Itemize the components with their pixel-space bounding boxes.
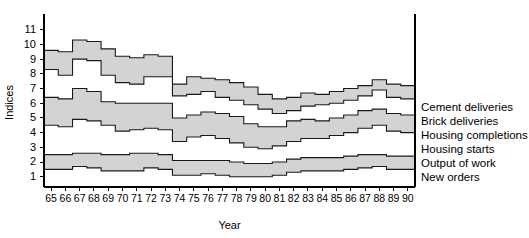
x-tick-label-83: 83 <box>302 192 314 204</box>
x-tick-label-69: 69 <box>102 192 114 204</box>
y-tick-label-10: 10 <box>24 38 36 50</box>
x-tick-label-68: 68 <box>88 192 100 204</box>
x-tick-label-88: 88 <box>373 192 385 204</box>
indices-step-area-chart: 1234567891011656667686970717273747576777… <box>0 0 529 238</box>
x-tick-label-78: 78 <box>231 192 243 204</box>
x-tick-label-75: 75 <box>188 192 200 204</box>
x-tick-label-67: 67 <box>74 192 86 204</box>
x-tick-label-87: 87 <box>359 192 371 204</box>
legend-label-new-orders: New orders <box>421 171 480 183</box>
y-axis-title: Indices <box>3 85 15 120</box>
x-tick-label-73: 73 <box>159 192 171 204</box>
legend-label-brick-deliveries: Brick deliveries <box>421 115 499 127</box>
x-tick-label-85: 85 <box>331 192 343 204</box>
legend-label-housing-completions: Housing completions <box>421 129 528 141</box>
legend-label-output-of-work: Output of work <box>421 157 496 169</box>
x-tick-label-84: 84 <box>316 192 328 204</box>
x-tick-label-90: 90 <box>402 192 414 204</box>
legend-label-housing-starts: Housing starts <box>421 143 495 155</box>
x-tick-label-82: 82 <box>288 192 300 204</box>
y-tick-label-9: 9 <box>30 53 36 65</box>
x-tick-label-81: 81 <box>274 192 286 204</box>
x-tick-label-79: 79 <box>245 192 257 204</box>
y-tick-label-11: 11 <box>25 23 36 35</box>
x-tick-label-74: 74 <box>174 192 186 204</box>
y-tick-label-8: 8 <box>30 67 36 79</box>
x-tick-label-77: 77 <box>217 192 229 204</box>
x-tick-label-66: 66 <box>60 192 72 204</box>
x-tick-label-72: 72 <box>145 192 157 204</box>
x-tick-label-86: 86 <box>345 192 357 204</box>
x-tick-label-71: 71 <box>131 192 143 204</box>
y-tick-label-3: 3 <box>30 141 36 153</box>
x-tick-label-76: 76 <box>202 192 214 204</box>
y-tick-label-1: 1 <box>30 170 36 182</box>
y-tick-label-5: 5 <box>30 111 36 123</box>
x-tick-label-70: 70 <box>117 192 129 204</box>
x-tick-label-80: 80 <box>259 192 271 204</box>
band-bottom-output-of-work <box>44 153 415 177</box>
legend-label-cement-deliveries: Cement deliveries <box>421 101 513 113</box>
y-tick-label-6: 6 <box>30 97 36 109</box>
chart-container: 1234567891011656667686970717273747576777… <box>0 0 529 238</box>
x-tick-label-89: 89 <box>388 192 400 204</box>
y-tick-label-4: 4 <box>30 126 36 138</box>
x-tick-label-65: 65 <box>45 192 57 204</box>
y-tick-label-2: 2 <box>30 155 36 167</box>
y-tick-label-7: 7 <box>30 82 36 94</box>
x-axis-title: Year <box>218 219 241 231</box>
